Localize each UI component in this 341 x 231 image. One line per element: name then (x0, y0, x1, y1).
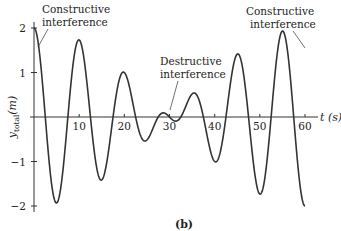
svg-text:interference: interference (160, 68, 226, 80)
svg-text:Destructive: Destructive (160, 55, 222, 67)
x-axis-label: t (s) (320, 111, 341, 124)
y-tick-label: 1 (19, 67, 26, 79)
x-tick-label: 30 (163, 120, 176, 132)
annotation-destructive: Destructive interference (160, 55, 226, 110)
y-tick-label: 2 (19, 22, 26, 34)
svg-text:interference: interference (42, 16, 108, 28)
svg-text:Constructive: Constructive (42, 3, 110, 15)
svg-text:interference: interference (250, 18, 316, 30)
annotation-constructive-right: Constructive interference (246, 5, 316, 48)
x-tick-label: 50 (253, 120, 266, 132)
annotation-constructive-left: Constructive interference (38, 3, 110, 47)
y-tick-label: −2 (11, 200, 26, 212)
svg-text:ytotal(m): ytotal(m) (6, 96, 21, 140)
x-tick-label: 10 (73, 120, 86, 132)
y-axis-label: ytotal(m) (6, 96, 21, 140)
figure-caption: (b) (175, 218, 193, 231)
x-tick-label: 60 (298, 120, 311, 132)
svg-text:Constructive: Constructive (246, 5, 314, 17)
interference-chart: 2 1 −1 −2 10 20 30 40 50 60 t (s) ytotal… (0, 0, 341, 231)
x-tick-label: 20 (118, 120, 131, 132)
y-tick-label: −1 (11, 156, 26, 168)
x-tick-label: 40 (208, 120, 221, 132)
